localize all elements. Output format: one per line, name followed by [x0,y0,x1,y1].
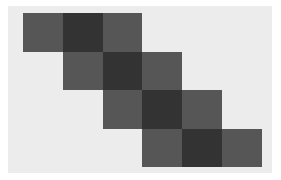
heatmap-cell-r3-c4 [182,129,222,168]
heatmap-cell-r1-c1 [63,52,103,91]
heatmap-cell-r3-c3 [142,129,182,168]
heatmap-cell-r2-c4 [182,90,222,129]
heatmap-cell-grid [8,6,272,173]
heatmap-plot-area [8,6,272,173]
heatmap-cell-r2-c2 [103,90,143,129]
heatmap-cell-r1-c2 [103,52,143,91]
heatmap-cell-r0-c1 [63,13,103,52]
heatmap-cell-r0-c0 [23,13,63,52]
heatmap-cell-r3-c5 [222,129,262,168]
heatmap-cell-r2-c3 [142,90,182,129]
figure-canvas [0,0,281,180]
heatmap-cell-r0-c2 [103,13,143,52]
heatmap-cell-r1-c3 [142,52,182,91]
